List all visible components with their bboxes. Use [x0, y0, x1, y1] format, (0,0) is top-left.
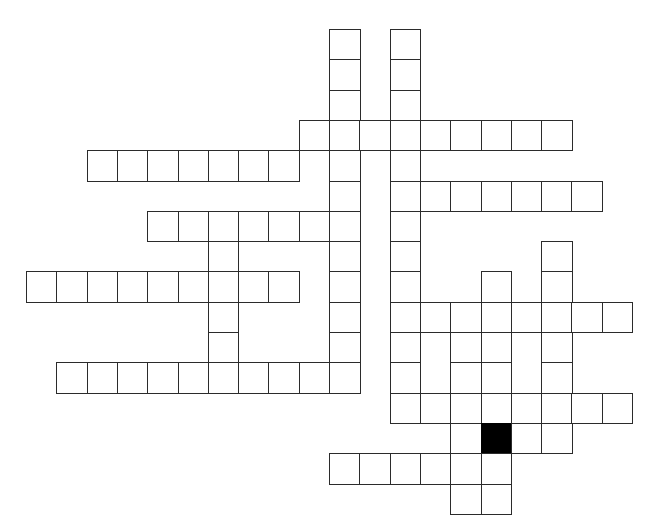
- crossword-cell[interactable]: [420, 302, 452, 334]
- crossword-cell[interactable]: [268, 211, 300, 243]
- crossword-cell[interactable]: [571, 302, 603, 334]
- crossword-cell[interactable]: [238, 362, 270, 394]
- crossword-cell[interactable]: [420, 181, 452, 213]
- crossword-cell[interactable]: [208, 362, 240, 394]
- crossword-cell[interactable]: [299, 211, 331, 243]
- crossword-cell[interactable]: [450, 332, 482, 364]
- crossword-cell[interactable]: [359, 120, 391, 152]
- crossword-cell[interactable]: [450, 484, 482, 516]
- crossword-cell[interactable]: [450, 453, 482, 485]
- crossword-cell[interactable]: [390, 271, 422, 303]
- crossword-cell[interactable]: [178, 211, 210, 243]
- crossword-cell[interactable]: [178, 271, 210, 303]
- crossword-cell[interactable]: [390, 150, 422, 182]
- crossword-cell[interactable]: [208, 241, 240, 273]
- crossword-cell[interactable]: [511, 393, 543, 425]
- crossword-cell[interactable]: [117, 362, 149, 394]
- crossword-cell[interactable]: [541, 271, 573, 303]
- crossword-cell[interactable]: [541, 332, 573, 364]
- crossword-cell[interactable]: [390, 120, 422, 152]
- crossword-cell[interactable]: [147, 362, 179, 394]
- crossword-cell[interactable]: [56, 271, 88, 303]
- crossword-cell[interactable]: [541, 423, 573, 455]
- crossword-cell[interactable]: [602, 302, 634, 334]
- crossword-cell[interactable]: [390, 241, 422, 273]
- crossword-cell[interactable]: [390, 453, 422, 485]
- crossword-cell[interactable]: [450, 181, 482, 213]
- crossword-cell[interactable]: [268, 271, 300, 303]
- crossword-cell[interactable]: [390, 393, 422, 425]
- crossword-cell[interactable]: [329, 90, 361, 122]
- crossword-cell[interactable]: [329, 59, 361, 91]
- crossword-cell[interactable]: [299, 120, 331, 152]
- crossword-cell[interactable]: [481, 120, 513, 152]
- crossword-cell[interactable]: [208, 150, 240, 182]
- crossword-cell[interactable]: [178, 150, 210, 182]
- crossword-cell[interactable]: [238, 211, 270, 243]
- crossword-cell[interactable]: [511, 120, 543, 152]
- crossword-cell[interactable]: [481, 302, 513, 334]
- crossword-cell[interactable]: [147, 150, 179, 182]
- crossword-cell[interactable]: [541, 362, 573, 394]
- crossword-cell[interactable]: [571, 393, 603, 425]
- crossword-cell[interactable]: [541, 241, 573, 273]
- crossword-cell[interactable]: [481, 271, 513, 303]
- crossword-cell[interactable]: [481, 332, 513, 364]
- crossword-cell[interactable]: [511, 423, 543, 455]
- crossword-cell[interactable]: [390, 59, 422, 91]
- crossword-cell[interactable]: [541, 181, 573, 213]
- crossword-cell[interactable]: [87, 271, 119, 303]
- crossword-cell[interactable]: [208, 332, 240, 364]
- crossword-cell[interactable]: [420, 120, 452, 152]
- crossword-cell[interactable]: [481, 453, 513, 485]
- crossword-cell[interactable]: [420, 393, 452, 425]
- crossword-cell[interactable]: [329, 181, 361, 213]
- crossword-cell[interactable]: [147, 211, 179, 243]
- crossword-grid[interactable]: [0, 0, 654, 518]
- crossword-cell[interactable]: [329, 241, 361, 273]
- crossword-cell[interactable]: [329, 362, 361, 394]
- crossword-cell[interactable]: [359, 453, 391, 485]
- crossword-cell[interactable]: [238, 150, 270, 182]
- crossword-cell[interactable]: [390, 211, 422, 243]
- crossword-cell[interactable]: [208, 211, 240, 243]
- crossword-cell[interactable]: [329, 120, 361, 152]
- crossword-cell[interactable]: [208, 302, 240, 334]
- crossword-cell[interactable]: [571, 181, 603, 213]
- crossword-cell[interactable]: [450, 393, 482, 425]
- crossword-cell[interactable]: [238, 271, 270, 303]
- crossword-cell[interactable]: [481, 181, 513, 213]
- crossword-cell[interactable]: [329, 302, 361, 334]
- crossword-cell[interactable]: [390, 302, 422, 334]
- crossword-cell[interactable]: [511, 181, 543, 213]
- crossword-cell[interactable]: [56, 362, 88, 394]
- crossword-cell[interactable]: [541, 393, 573, 425]
- crossword-cell[interactable]: [450, 423, 482, 455]
- crossword-cell[interactable]: [390, 362, 422, 394]
- crossword-cell[interactable]: [481, 362, 513, 394]
- crossword-cell[interactable]: [450, 302, 482, 334]
- crossword-cell[interactable]: [450, 120, 482, 152]
- crossword-cell[interactable]: [390, 332, 422, 364]
- crossword-cell[interactable]: [87, 150, 119, 182]
- crossword-cell[interactable]: [299, 362, 331, 394]
- crossword-cell[interactable]: [511, 302, 543, 334]
- crossword-cell[interactable]: [87, 362, 119, 394]
- crossword-cell[interactable]: [208, 271, 240, 303]
- crossword-cell[interactable]: [481, 484, 513, 516]
- crossword-cell[interactable]: [117, 271, 149, 303]
- crossword-cell[interactable]: [329, 211, 361, 243]
- crossword-cell[interactable]: [541, 120, 573, 152]
- crossword-cell[interactable]: [390, 90, 422, 122]
- crossword-cell[interactable]: [329, 453, 361, 485]
- crossword-cell[interactable]: [178, 362, 210, 394]
- crossword-cell[interactable]: [541, 302, 573, 334]
- crossword-cell[interactable]: [26, 271, 58, 303]
- crossword-cell[interactable]: [147, 271, 179, 303]
- crossword-cell[interactable]: [390, 29, 422, 61]
- crossword-cell[interactable]: [450, 362, 482, 394]
- crossword-cell[interactable]: [329, 332, 361, 364]
- crossword-cell[interactable]: [481, 393, 513, 425]
- crossword-cell[interactable]: [420, 453, 452, 485]
- crossword-cell[interactable]: [329, 271, 361, 303]
